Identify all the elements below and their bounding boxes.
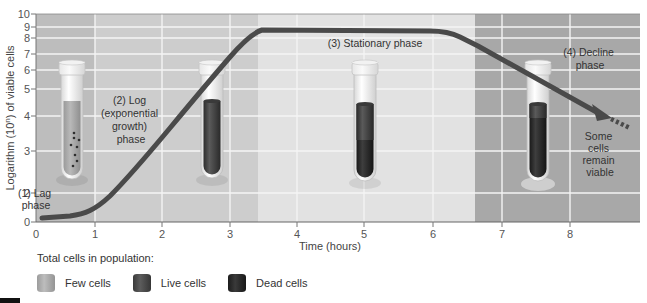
test-tube-few-cells — [56, 60, 88, 186]
few-cells-swatch-icon — [37, 274, 55, 292]
x-ticks — [95, 222, 570, 227]
y-axis-title-pre: Logarithm (10 — [4, 123, 16, 191]
legend-items: Few cells Live cells Dead cells — [37, 274, 329, 292]
x-tick-label: 7 — [499, 228, 505, 240]
y-tick-label: 8 — [24, 32, 30, 44]
y-tick-label: 5 — [24, 83, 30, 95]
x-tick-label: 2 — [159, 228, 165, 240]
legend-title: Total cells in population: — [37, 252, 154, 264]
x-tick-labels: 0 1 2 3 4 5 6 7 8 — [33, 228, 573, 240]
legend-item-dead-cells: Dead cells — [228, 274, 307, 292]
y-axis-title: Logarithm (10n) of viable cells — [3, 45, 16, 191]
label-some-cells-remain-viable: Some cells remain viable — [582, 130, 617, 178]
legend-item-few-cells: Few cells — [37, 274, 111, 292]
label-lag-phase: (1) Lag phase — [18, 187, 54, 211]
y-tick-label: 4 — [24, 110, 30, 122]
x-tick-label: 3 — [227, 228, 233, 240]
y-axis-title-post: ) of viable cells — [4, 45, 16, 118]
legend-item-live-cells: Live cells — [133, 274, 206, 292]
y-tick-label: 6 — [24, 64, 30, 76]
legend-label: Few cells — [65, 277, 111, 289]
x-tick-label: 6 — [430, 228, 436, 240]
x-tick-label: 8 — [567, 228, 573, 240]
x-tick-label: 1 — [92, 228, 98, 240]
legend-label: Dead cells — [256, 277, 307, 289]
test-tube-stationary — [349, 60, 381, 189]
x-tick-label: 4 — [294, 228, 300, 240]
y-tick-label: 0 — [24, 216, 30, 228]
caption-marker — [0, 298, 20, 303]
label-stationary-phase: (3) Stationary phase — [328, 37, 423, 49]
legend-label: Live cells — [161, 277, 206, 289]
live-cells-swatch-icon — [133, 274, 151, 292]
x-tick-label: 0 — [33, 228, 39, 240]
y-tick-label: 7 — [24, 48, 30, 60]
x-axis-title: Time (hours) — [299, 240, 361, 252]
x-tick-label: 5 — [361, 228, 367, 240]
y-tick-label: 3 — [24, 145, 30, 157]
dead-cells-swatch-icon — [228, 274, 246, 292]
y-tick-label: 10 — [18, 8, 30, 20]
